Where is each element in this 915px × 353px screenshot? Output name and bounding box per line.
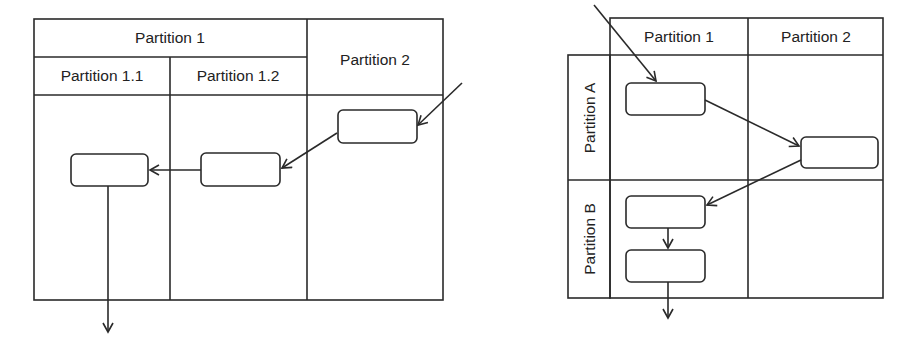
activity-node-r2[interactable] (801, 137, 878, 168)
activity-node-l2[interactable] (201, 153, 280, 186)
header-partition-1-2: Partition 1.2 (197, 67, 280, 84)
left-swimlane-diagram: Partition 1 Partition 1.1 Partition 1.2 … (34, 19, 462, 332)
activity-node-l3[interactable] (71, 154, 148, 186)
arrow-r2-to-r3 (707, 160, 801, 205)
activity-node-r1[interactable] (626, 83, 705, 115)
header-row-partition-b: Partition B (581, 203, 598, 275)
diagram-canvas: Partition 1 Partition 1.1 Partition 1.2 … (0, 0, 915, 353)
activity-node-l1[interactable] (338, 110, 417, 143)
arrow-l1-to-l2 (282, 133, 337, 168)
arrow-incoming-l1 (418, 83, 462, 125)
activity-node-r3[interactable] (626, 196, 705, 228)
header-row-partition-a: Partition A (581, 82, 598, 153)
arrow-r1-to-r2 (705, 100, 799, 146)
header-column-partition-2: Partition 2 (781, 28, 851, 45)
header-partition-1: Partition 1 (135, 29, 205, 46)
header-column-partition-1: Partition 1 (644, 28, 714, 45)
activity-node-r4[interactable] (626, 250, 705, 282)
right-swimlane-diagram: Partition 1 Partition 2 Partition A Part… (568, 5, 883, 318)
header-partition-1-1: Partition 1.1 (61, 67, 144, 84)
header-partition-2: Partition 2 (340, 51, 410, 68)
